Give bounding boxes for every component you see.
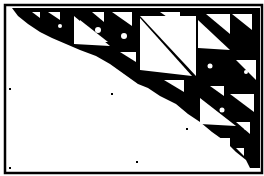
fractal-figure xyxy=(0,0,264,176)
